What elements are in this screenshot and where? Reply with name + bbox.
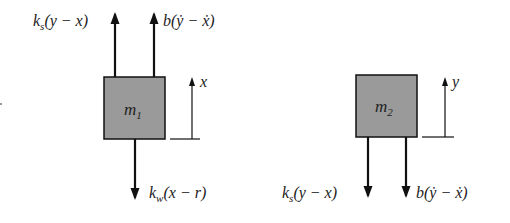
force-label-damper-m1: b(ẏ − ẋ) <box>163 12 215 30</box>
displacement-label-y: y <box>450 73 460 91</box>
force-label-damper-m2: b(ẏ − ẋ) <box>416 184 468 202</box>
mass-2-group: m2 ks(y − x) b(ẏ − ẋ) y <box>282 73 468 204</box>
displacement-label-x: x <box>199 73 207 90</box>
free-body-diagram: m1 ks(y − x) b(ẏ − ẋ) kw(x − r) x m2 ks(… <box>0 0 510 223</box>
mass-1-group: m1 ks(y − x) b(ẏ − ẋ) kw(x − r) x <box>33 12 215 204</box>
force-label-spring-m2: ks(y − x) <box>282 184 337 204</box>
stray-mark <box>0 103 2 105</box>
force-label-tire-m1: kw(x − r) <box>149 184 206 204</box>
force-label-spring-m1: ks(y − x) <box>33 12 88 32</box>
